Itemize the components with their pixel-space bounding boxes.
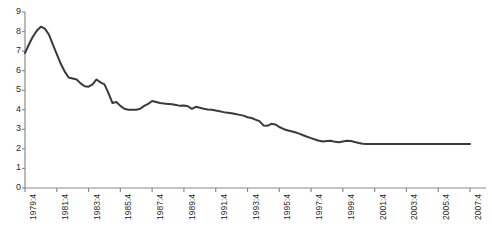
x-tick-label: 1987:4 [156, 194, 165, 220]
x-tick-label: 1979:4 [29, 194, 38, 220]
figure-caption [20, 233, 460, 242]
x-tick-label: 1995:4 [283, 194, 292, 220]
x-tick-label: 1991:4 [220, 194, 229, 220]
x-tick-label: 1983:4 [93, 194, 102, 220]
x-tick-label: 1993:4 [252, 194, 261, 220]
x-tick-label: 2005:4 [442, 194, 451, 220]
x-tick-label: 1989:4 [188, 194, 197, 220]
x-tick-label: 1999:4 [347, 194, 356, 220]
x-tick-label: 1985:4 [124, 194, 133, 220]
x-axis-labels: 1979:41981:41983:41985:41987:41989:41991… [0, 0, 492, 242]
chart-figure: 0123456789 1979:41981:41983:41985:41987:… [0, 0, 492, 242]
x-tick-label: 2001:4 [379, 194, 388, 220]
x-tick-label: 2003:4 [410, 194, 419, 220]
x-tick-label: 1997:4 [315, 194, 324, 220]
x-tick-label: 1981:4 [61, 194, 70, 220]
x-tick-label: 2007:4 [474, 194, 483, 220]
